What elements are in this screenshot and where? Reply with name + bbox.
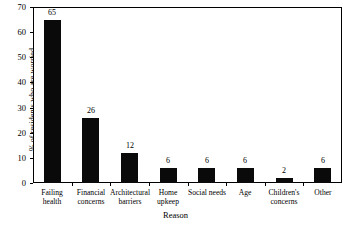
y-axis-tick-mark (30, 7, 33, 8)
y-axis-tick-mark (30, 57, 33, 58)
bar-value-label: 6 (303, 157, 343, 165)
x-axis-category-label-line: Other (295, 188, 351, 197)
x-axis-category-label-line: upkeep (140, 197, 196, 206)
x-axis-tick-mark (226, 183, 227, 186)
y-axis-tick-mark (30, 32, 33, 33)
bar-value-label: 65 (32, 9, 72, 17)
y-axis-tick-mark (30, 183, 33, 184)
bar-value-label: 2 (264, 167, 304, 175)
x-axis-category-label: Other (295, 188, 351, 197)
y-axis-tick-mark (30, 133, 33, 134)
y-axis-tick-mark (30, 158, 33, 159)
x-axis-tick-mark (265, 183, 266, 186)
bar (314, 168, 331, 183)
bar-value-label: 6 (148, 157, 188, 165)
x-axis-tick-mark (188, 183, 189, 186)
y-axis-tick-mark (30, 82, 33, 83)
bar (198, 168, 215, 183)
y-axis-tick-label: 30 (6, 104, 26, 113)
y-axis-tick-label: 70 (6, 3, 26, 12)
y-axis-tick-label: 20 (6, 129, 26, 138)
bar-value-label: 26 (71, 107, 111, 115)
bar-value-label: 6 (187, 157, 227, 165)
bar (121, 153, 138, 183)
bar (276, 178, 293, 183)
y-axis-tick-mark (30, 108, 33, 109)
bar (160, 168, 177, 183)
x-axis-title: Reason (0, 210, 351, 220)
bar (82, 118, 99, 183)
x-axis-tick-mark (149, 183, 150, 186)
y-axis-tick-label: 60 (6, 28, 26, 37)
y-axis-tick-label: 0 (6, 179, 26, 188)
y-axis-tick-label: 50 (6, 53, 26, 62)
bar (44, 20, 61, 183)
x-axis-tick-mark (303, 183, 304, 186)
x-axis-tick-mark (72, 183, 73, 186)
bar-value-label: 12 (110, 142, 150, 150)
x-axis-tick-mark (110, 183, 111, 186)
y-axis-tick-label: 10 (6, 154, 26, 163)
bar-value-label: 6 (225, 157, 265, 165)
bar-chart: % of residents who are worried 010203040… (0, 0, 351, 229)
bar (237, 168, 254, 183)
y-axis-tick-label: 40 (6, 78, 26, 87)
x-axis-category-label-line: concerns (256, 197, 312, 206)
